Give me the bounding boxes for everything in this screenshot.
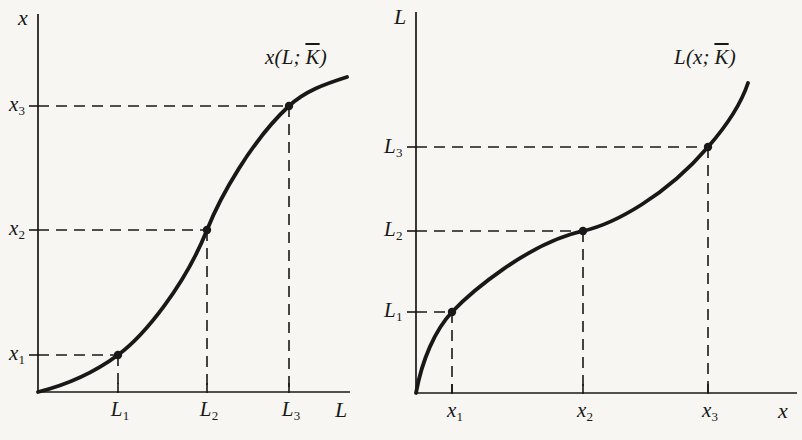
left-curve-label: x(L;K) [265, 47, 327, 68]
marked-point [448, 308, 456, 316]
left-y-tick-label-x2: x2 [9, 218, 25, 241]
output-vs-labor-curve [38, 77, 347, 392]
marked-point [579, 227, 587, 235]
right-x-tick-label-x1: x1 [447, 400, 463, 423]
marked-point [114, 351, 122, 359]
right-curve-label-prefix: L(x; [674, 45, 710, 69]
right-curve-label-suffix: ) [729, 45, 736, 69]
marked-point [203, 226, 211, 234]
right-y-tick-label-L1: L1 [384, 300, 402, 323]
right-x-tick-label-x3: x3 [702, 400, 718, 423]
right-y-tick-label-L3: L3 [384, 136, 402, 159]
output-vs-labor-plot [29, 14, 350, 393]
marked-point [704, 143, 712, 151]
labor-vs-output-plot [407, 12, 797, 394]
left-curve-label-suffix: ) [320, 45, 327, 69]
left-x-tick-label-L1: L1 [111, 399, 129, 422]
left-x-tick-label-L2: L2 [200, 399, 218, 422]
left-x-axis-label: L [335, 399, 347, 421]
labor-vs-output-curve [416, 83, 748, 393]
left-curve-label-prefix: x(L; [265, 45, 301, 69]
left-curve-label-kbar: K [305, 45, 319, 69]
left-y-tick-label-x1: x1 [9, 343, 25, 366]
right-curve-label-kbar: K [714, 45, 728, 69]
right-curve-label: L(x;K) [674, 47, 736, 68]
marked-point [285, 102, 293, 110]
right-y-axis-label: L [394, 6, 406, 28]
right-y-tick-label-L2: L2 [384, 219, 402, 242]
left-y-tick-label-x3: x3 [9, 94, 25, 117]
right-x-tick-label-x2: x2 [577, 400, 593, 423]
figure-canvas: x x(L;K) x3 x2 x1 L1 L2 L3 L L L(x;K) L3… [0, 0, 802, 440]
left-x-tick-label-L3: L3 [282, 399, 300, 422]
right-x-axis-label: x [778, 400, 788, 422]
left-y-axis-label: x [18, 7, 28, 29]
